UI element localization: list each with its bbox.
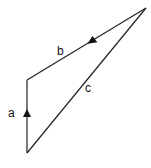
label-c: c xyxy=(85,81,91,95)
label-a: a xyxy=(8,106,15,120)
label-b: b xyxy=(57,44,64,58)
vector-b-line xyxy=(27,8,146,80)
vector-triangle-diagram: a b c xyxy=(0,0,151,168)
arrow-up-icon xyxy=(23,109,31,117)
